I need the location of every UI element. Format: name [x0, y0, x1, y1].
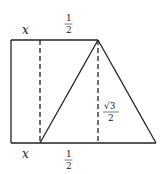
label-top-x: x — [22, 23, 29, 37]
label-height-den: 2 — [108, 113, 114, 123]
label-bottom-half-den: 2 — [66, 161, 72, 171]
label-top-half-num: 1 — [66, 13, 72, 23]
label-top-half-den: 2 — [66, 25, 72, 35]
label-height-num: √3 — [104, 101, 116, 111]
label-bottom-x: x — [22, 147, 29, 161]
geometry-diagram: x 1 2 √3 2 x 1 2 — [0, 0, 164, 174]
triangle-right-side — [98, 40, 156, 143]
triangle-left-side — [40, 40, 98, 143]
label-bottom-half-num: 1 — [66, 149, 72, 159]
